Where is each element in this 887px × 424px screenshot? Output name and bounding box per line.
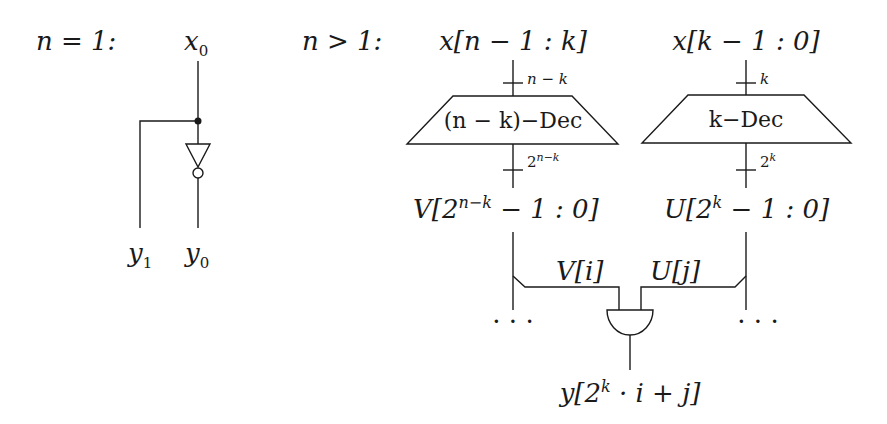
left-ellipsis: · · · xyxy=(492,306,533,336)
base-case-heading: n = 1: xyxy=(36,26,116,56)
tap-v-i-label: V[i] xyxy=(556,256,604,286)
branch-wire-y1 xyxy=(140,121,198,228)
recursive-case: n > 1: x[n − 1 : k] n − k (n − k)−Dec 2n… xyxy=(302,26,851,408)
decoder-diagram: n = 1: x0 y1 y0 n > 1: x[n − 1 : k] n − … xyxy=(0,0,887,424)
recursive-case-heading: n > 1: xyxy=(302,26,382,56)
right-output-label: U[2k − 1 : 0] xyxy=(664,193,830,224)
right-input-label: x[k − 1 : 0] xyxy=(672,26,820,56)
left-bus-width-label: n − k xyxy=(527,70,568,88)
output-y0-label: y0 xyxy=(184,238,209,272)
input-x0-label: x0 xyxy=(184,26,208,60)
right-ellipsis: · · · xyxy=(737,306,778,336)
left-input-label: x[n − 1 : k] xyxy=(439,26,587,56)
inverter-icon xyxy=(186,144,210,167)
left-decoder-label: (n − k)−Dec xyxy=(444,108,583,133)
left-output-label: V[2n−k − 1 : 0] xyxy=(413,193,600,224)
left-out-width-label: 2n−k xyxy=(527,151,560,171)
and-gate-icon xyxy=(607,310,653,335)
base-case: n = 1: x0 y1 y0 xyxy=(36,26,210,272)
right-out-width-label: 2k xyxy=(760,151,777,171)
tap-u-j-label: U[j] xyxy=(650,256,701,286)
output-y1-label: y1 xyxy=(127,238,152,272)
right-bus-width-label: k xyxy=(760,70,769,88)
inverter-bubble-icon xyxy=(193,168,203,178)
result-output-label: y[2k · i + j] xyxy=(559,377,702,408)
right-decoder-label: k−Dec xyxy=(709,107,784,132)
